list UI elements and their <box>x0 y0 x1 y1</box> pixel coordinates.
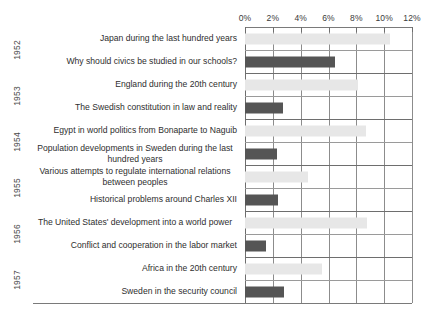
bar-row-label: Population developments in Sweden during… <box>33 142 241 165</box>
bar <box>245 79 358 90</box>
bar <box>245 56 335 67</box>
bar-row: The United States' development into a wo… <box>0 211 431 234</box>
bar-row-label: Why should civics be studied in our scho… <box>33 50 241 73</box>
x-axis-tick-label: 8% <box>350 13 363 23</box>
x-axis-tick-label: 12% <box>403 13 420 23</box>
year-label: 1955 <box>0 165 33 211</box>
bar-row-label: Africa in the 20th century <box>33 257 241 280</box>
year-label-text: 1957 <box>12 270 22 290</box>
year-label: 1957 <box>0 257 33 303</box>
bar-row: Population developments in Sweden during… <box>0 142 431 165</box>
bar-row: Egypt in world politics from Bonaparte t… <box>0 119 431 142</box>
year-label: 1952 <box>0 27 33 73</box>
bar <box>245 217 367 228</box>
bar-row: Various attempts to regulate internation… <box>0 165 431 188</box>
bar <box>245 194 278 205</box>
bar-row: The Swedish constitution in law and real… <box>0 96 431 119</box>
year-label-text: 1956 <box>12 224 22 244</box>
bar-row-label: Japan during the last hundred years <box>33 27 241 50</box>
x-axis-tick-label: 10% <box>376 13 393 23</box>
bar <box>245 286 284 297</box>
bar <box>245 240 266 251</box>
bar-row-label: England during the 20th century <box>33 73 241 96</box>
bar-row-label: Various attempts to regulate internation… <box>33 165 241 188</box>
horizontal-bar-chart: 0%2%4%6%8%10%12% Japan during the last h… <box>0 0 431 317</box>
bar-rows: Japan during the last hundred yearsWhy s… <box>0 27 431 303</box>
year-label-text: 1954 <box>12 132 22 152</box>
bar <box>245 148 277 159</box>
bar-row: Japan during the last hundred years <box>0 27 431 50</box>
bar-row-label: The United States' development into a wo… <box>33 211 241 234</box>
year-group-labels: 195219531954195519561957 <box>0 27 33 303</box>
bar <box>245 102 283 113</box>
bar-row: Africa in the 20th century <box>0 257 431 280</box>
bar-row: Historical problems around Charles XII <box>0 188 431 211</box>
bar <box>245 171 308 182</box>
year-label-text: 1955 <box>12 178 22 198</box>
x-axis-tick-label: 6% <box>322 13 335 23</box>
bar <box>245 263 322 274</box>
bar <box>245 33 390 44</box>
bar-row-label: Conflict and cooperation in the labor ma… <box>33 234 241 257</box>
year-label: 1956 <box>0 211 33 257</box>
year-label: 1953 <box>0 73 33 119</box>
bar-row-label: Egypt in world politics from Bonaparte t… <box>33 119 241 142</box>
x-axis-tick-labels: 0%2%4%6%8%10%12% <box>0 13 431 25</box>
year-label-text: 1952 <box>12 40 22 60</box>
bar-row: Why should civics be studied in our scho… <box>0 50 431 73</box>
bar-row: Sweden in the security council <box>0 280 431 303</box>
bar-row: England during the 20th century <box>0 73 431 96</box>
bar-row-label: Sweden in the security council <box>33 280 241 303</box>
x-axis-tick-label: 0% <box>239 13 252 23</box>
bar <box>245 125 366 136</box>
x-axis-tick-label: 4% <box>294 13 307 23</box>
bar-row: Conflict and cooperation in the labor ma… <box>0 234 431 257</box>
x-axis-tick-label: 2% <box>267 13 280 23</box>
bar-row-label: The Swedish constitution in law and real… <box>33 96 241 119</box>
year-label: 1954 <box>0 119 33 165</box>
year-label-text: 1953 <box>12 86 22 106</box>
bar-row-label: Historical problems around Charles XII <box>33 188 241 211</box>
plot-bottom-border <box>33 303 412 304</box>
